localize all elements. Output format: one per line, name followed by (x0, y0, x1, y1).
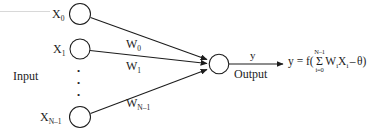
neuron-diagram-canvas: X0 X1 XN–1 • • • Input W0 W1 WN–1 y Outp… (0, 0, 372, 133)
input-node-x1-label: X1 (53, 43, 65, 55)
weight-label-wn: WN–1 (126, 97, 150, 109)
summing-neuron-circle (209, 54, 229, 74)
vertical-ellipsis-dot-2: • (77, 79, 80, 88)
weight-label-w1: W1 (126, 60, 141, 72)
output-signal-label: y (250, 50, 256, 61)
vertical-ellipsis-dot-3: • (77, 91, 80, 100)
summation-lower-limit: i=0 (315, 67, 323, 74)
edge-x1-to-neuron (90, 51, 207, 64)
summation-operator: N–1 Σ i=0 (314, 49, 325, 73)
formula-weight-term: WiXi (325, 55, 348, 67)
formula-closing-paren: ) (363, 55, 367, 67)
formula-lhs: y = f( (288, 55, 314, 67)
activation-formula: y = f( N–1 Σ i=0 WiXi – θ ) (288, 49, 366, 73)
edge-x0-to-neuron (91, 18, 208, 60)
input-node-xn-circle (70, 107, 91, 128)
input-node-xn-label: XN–1 (40, 111, 62, 123)
vertical-ellipsis-dot-1: • (77, 67, 80, 76)
input-section-label: Input (13, 70, 38, 82)
weight-label-w0: W0 (126, 38, 141, 50)
output-section-label: Output (234, 68, 267, 80)
input-node-x0-circle (70, 4, 91, 25)
formula-operator: – (348, 55, 357, 67)
input-node-x1-circle (70, 39, 90, 59)
input-node-x0-label: X0 (52, 8, 64, 20)
